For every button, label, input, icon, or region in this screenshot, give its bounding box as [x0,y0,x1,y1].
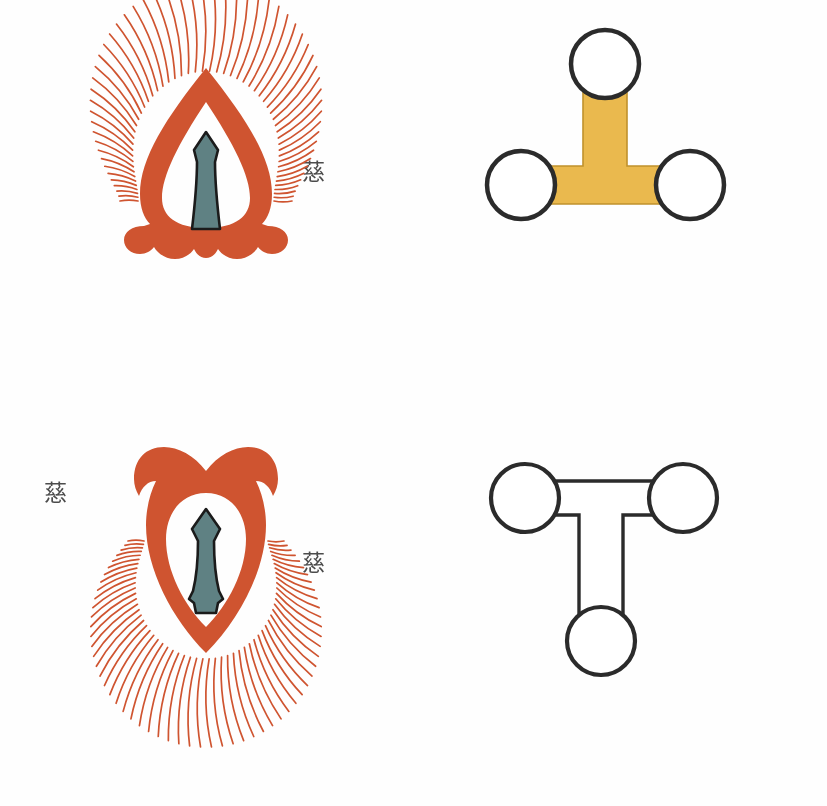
caption-left-bottom-left-lower: 㔕 瓊 [40,628,70,699]
node-left [487,151,555,219]
tangut-glyph: 㔕 [423,625,453,655]
manuscript-page: 㔕 𣽞 慈 䂖 [0,0,827,806]
panel-bottom-right: 㔕 瓊 戛 㒞 [413,403,826,806]
tangut-glyph: 慈 [40,481,70,511]
tangut-glyph: 㒞 [743,215,773,245]
flame-svg [96,26,316,286]
tangut-glyph: 㔕 [423,188,453,218]
tee-filled-svg [485,28,725,278]
node-bottom [567,607,635,675]
tangut-glyph: 邔 [40,522,70,552]
tangut-glyph: 𣽞 [40,239,70,269]
panel-bottom-left: 慈 邔 䳸 㩬 㔕 瓊 慈 䂖 [0,403,413,806]
panel-top-left: 㔕 𣽞 慈 䂖 [0,0,413,403]
figure-flame-inverted [96,421,316,681]
inner-pillar [192,132,220,229]
figure-tee-outline [483,451,733,701]
caption-left-bottom-right: 㔕 瓊 [423,625,453,718]
tangut-glyph: 荓 [423,270,453,300]
caption-left-bottom-left-upper: 慈 邔 䳸 㩬 [40,481,70,634]
tangut-glyph: 㔕 [40,628,70,658]
node-top-left [491,464,559,532]
caption-right-top-right: 㒞 𯩻 [743,215,773,286]
tangut-glyph: 瓊 [40,669,70,699]
node-top [571,30,639,98]
tangut-glyph: 戛 [423,229,453,259]
tangut-glyph: 瓊 [423,688,453,718]
flame-inverted-svg [96,421,316,681]
caption-left-top-right: 㔕 戛 荓 [423,188,453,300]
caption-right-bottom-right: 戛 㒞 [745,591,775,662]
figure-tee-filled [485,28,725,278]
inner-pillar-inverted [189,509,223,613]
tangut-glyph: 𯩻 [743,256,773,286]
panel-top-right: 㔕 戛 荓 㒞 𯩻 [413,0,826,403]
tangut-glyph: 戛 [745,591,775,621]
tangut-glyph: 㒞 [745,632,775,662]
tee-outline-svg [483,451,733,701]
tangut-glyph: 㔕 [40,198,70,228]
figure-flame-upright [96,26,316,286]
tangut-glyph: 䳸 [40,563,70,593]
caption-left-top-left: 㔕 𣽞 [40,198,70,269]
node-right [656,151,724,219]
node-top-right [649,464,717,532]
